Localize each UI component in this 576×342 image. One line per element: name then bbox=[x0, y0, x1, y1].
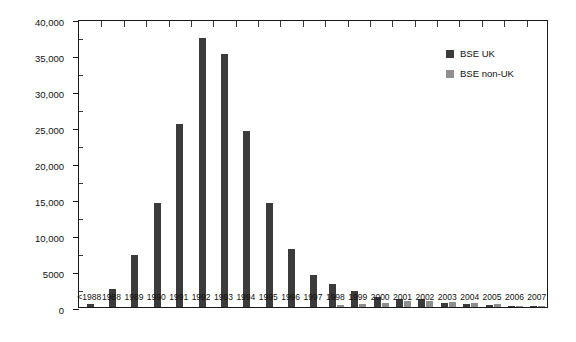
bar-group bbox=[236, 21, 258, 307]
bar-group bbox=[415, 21, 437, 307]
bar bbox=[337, 305, 344, 307]
legend-swatch bbox=[446, 50, 454, 58]
bar-group bbox=[169, 21, 191, 307]
y-tick-label: 40,000 bbox=[35, 17, 64, 28]
bar-group bbox=[280, 21, 302, 307]
bar-group bbox=[370, 21, 392, 307]
x-tick-label: 1998 bbox=[326, 292, 345, 302]
bar bbox=[508, 306, 515, 307]
x-tick-label: 2004 bbox=[460, 292, 479, 302]
x-tick-label: 1990 bbox=[147, 292, 166, 302]
x-tick-label: 2001 bbox=[393, 292, 412, 302]
y-tick-label: 30,000 bbox=[35, 89, 64, 100]
y-tick-label: 35,000 bbox=[35, 53, 64, 64]
bar bbox=[530, 306, 537, 307]
x-tick-label: <1988 bbox=[77, 292, 101, 302]
bar bbox=[463, 304, 470, 307]
bar-group bbox=[191, 21, 213, 307]
x-tick-label: 2005 bbox=[483, 292, 502, 302]
legend-swatch bbox=[446, 70, 454, 78]
bar-group bbox=[79, 21, 101, 307]
y-tick-label: 15,000 bbox=[35, 197, 64, 208]
x-tick-label: 1995 bbox=[259, 292, 278, 302]
y-tick-label: 10,000 bbox=[35, 233, 64, 244]
bar-group bbox=[303, 21, 325, 307]
legend-label: BSE non-UK bbox=[460, 68, 514, 79]
bar-group bbox=[258, 21, 280, 307]
x-tick-label: 2006 bbox=[505, 292, 524, 302]
legend-item: BSE non-UK bbox=[446, 68, 514, 79]
chart-legend: BSE UKBSE non-UK bbox=[446, 48, 514, 88]
bar-group bbox=[146, 21, 168, 307]
x-tick-label: 2003 bbox=[438, 292, 457, 302]
bar bbox=[176, 124, 183, 307]
legend-item: BSE UK bbox=[446, 48, 514, 59]
bar bbox=[449, 302, 456, 307]
bar bbox=[471, 303, 478, 307]
x-tick-label: 1996 bbox=[281, 292, 300, 302]
legend-label: BSE UK bbox=[460, 48, 495, 59]
bar-group bbox=[348, 21, 370, 307]
x-tick-label: 1992 bbox=[192, 292, 211, 302]
x-tick-label: 2007 bbox=[527, 292, 546, 302]
bar-group bbox=[101, 21, 123, 307]
bar-group bbox=[124, 21, 146, 307]
y-tick: 0 bbox=[73, 309, 79, 310]
x-tick-label: 1997 bbox=[304, 292, 323, 302]
bar bbox=[486, 305, 493, 307]
bar-group bbox=[527, 21, 549, 307]
bar bbox=[221, 54, 228, 307]
x-tick-label: 1994 bbox=[236, 292, 255, 302]
bar bbox=[87, 304, 94, 307]
x-tick-label: 1999 bbox=[348, 292, 367, 302]
x-tick-label: 1988 bbox=[102, 292, 121, 302]
bse-cases-bar-chart: Number of yearly identified infected cow… bbox=[0, 0, 576, 342]
x-tick-label: 1989 bbox=[124, 292, 143, 302]
x-tick-label: 2000 bbox=[371, 292, 390, 302]
bar-group bbox=[325, 21, 347, 307]
bar-group bbox=[213, 21, 235, 307]
bar bbox=[199, 38, 206, 307]
x-tick-label: 1993 bbox=[214, 292, 233, 302]
y-tick-label: 0 bbox=[59, 305, 64, 316]
y-tick-label: 20,000 bbox=[35, 161, 64, 172]
bar bbox=[441, 303, 448, 307]
x-tick-label: 1991 bbox=[169, 292, 188, 302]
bar bbox=[494, 304, 501, 307]
bar bbox=[243, 131, 250, 307]
bar bbox=[359, 304, 366, 307]
bar bbox=[538, 306, 545, 307]
bar bbox=[516, 306, 523, 307]
bar-group bbox=[392, 21, 414, 307]
y-tick-label: 25,000 bbox=[35, 125, 64, 136]
x-tick-label: 2002 bbox=[415, 292, 434, 302]
bar bbox=[382, 303, 389, 307]
y-tick-label: 5000 bbox=[43, 269, 64, 280]
